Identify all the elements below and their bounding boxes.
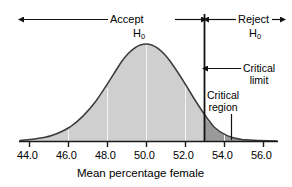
critical-region-label: Critical region [207, 89, 239, 113]
x-tick-label-2: 48.0 [95, 150, 116, 161]
x-tick-label-6: 56.0 [251, 150, 272, 161]
accept-null-hypothesis: H0 [133, 28, 145, 41]
x-tick-label-3: 50.0 [134, 150, 155, 161]
x-tick-label-4: 52.0 [173, 150, 194, 161]
h-subscript-accept: 0 [141, 32, 145, 41]
accept-region-fill [20, 44, 204, 141]
critical-region-line1: Critical [207, 89, 239, 101]
x-axis-title: Mean percentage female [77, 168, 204, 180]
critical-region-line2: region [207, 101, 239, 113]
x-tick-label-1: 46.0 [56, 150, 77, 161]
x-tick-label-5: 54.0 [212, 150, 233, 161]
figure-normal-distribution-hypothesis-test: Accept H0 Reject H0 Critical limit Criti… [0, 0, 292, 187]
critical-limit-line2: limit [243, 74, 275, 86]
critical-limit-label: Critical limit [243, 62, 275, 86]
critical-limit-line1: Critical [243, 62, 275, 74]
h-subscript-reject: 0 [257, 32, 261, 41]
reject-label: Reject [238, 14, 269, 25]
accept-label: Accept [110, 14, 144, 25]
h-symbol-reject: H [249, 27, 257, 39]
x-tick-label-0: 44.0 [17, 150, 38, 161]
reject-null-hypothesis: H0 [249, 28, 261, 41]
h-symbol-accept: H [133, 27, 141, 39]
